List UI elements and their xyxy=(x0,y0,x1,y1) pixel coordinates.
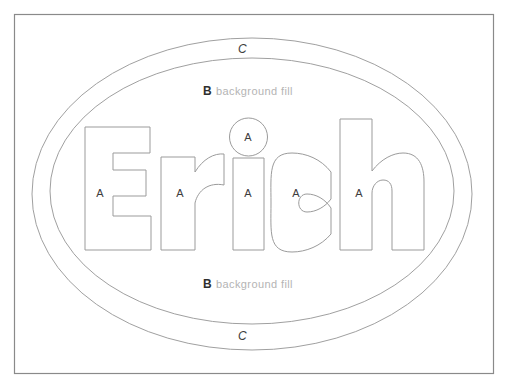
diagram-canvas: C B background fill B background fill C … xyxy=(0,0,512,390)
label-b-top-text: background fill xyxy=(216,85,293,97)
label-c-top: C xyxy=(238,42,247,56)
label-c-bottom: C xyxy=(238,329,247,343)
label-a-on-E: A xyxy=(96,187,104,199)
outer-rectangle-frame xyxy=(15,15,494,374)
label-b-top-letter: B xyxy=(203,84,212,98)
label-a-on-i-stem: A xyxy=(244,187,252,199)
label-a-on-c: A xyxy=(292,187,300,199)
label-a-on-r: A xyxy=(176,187,184,199)
label-a-on-i-dot: A xyxy=(244,131,252,143)
label-a-on-h: A xyxy=(355,187,363,199)
diagram-svg: C B background fill B background fill C … xyxy=(0,0,512,390)
label-b-bottom-text: background fill xyxy=(216,278,293,290)
label-b-bottom-letter: B xyxy=(203,277,212,291)
